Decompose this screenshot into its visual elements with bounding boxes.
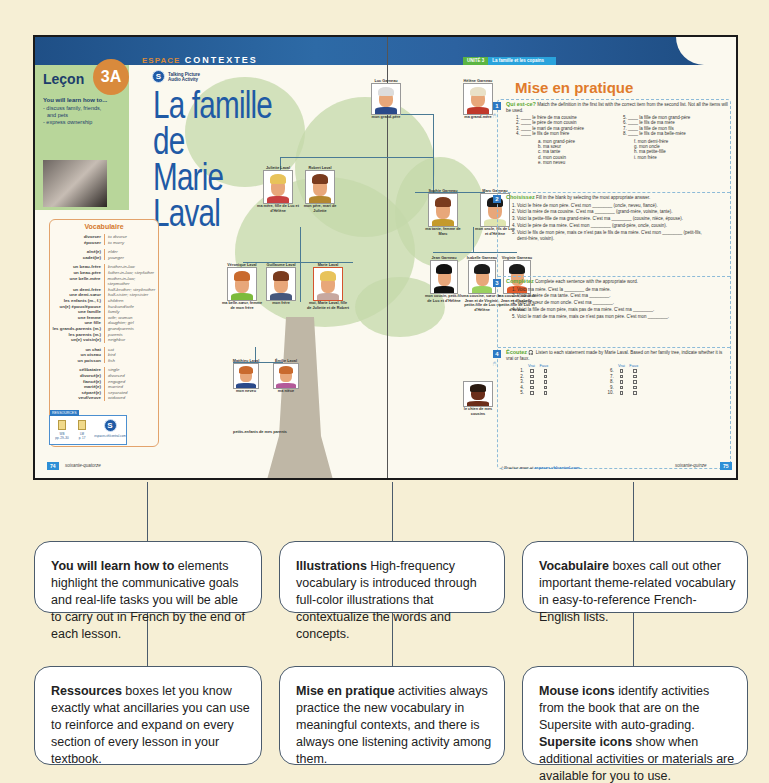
callout-connector: [147, 482, 148, 542]
supersite-url: espaces.vhlcentral.com: [94, 434, 126, 438]
faux-checkbox[interactable]: [633, 391, 637, 395]
divider: [498, 347, 730, 348]
faux-checkbox[interactable]: [633, 369, 637, 373]
faux-checkbox[interactable]: [544, 380, 548, 384]
vrai-checkbox[interactable]: [620, 380, 624, 384]
vrai-checkbox[interactable]: [530, 369, 534, 373]
activity-item: 8. ____ le fils de ma belle-mère: [623, 131, 730, 136]
activity-heading: Qui est-ce? Match the definition in the …: [498, 102, 730, 113]
ressource-pages: p. 17: [74, 436, 90, 440]
activity-4: 4 🖱 Écoutez 🎧 Listen to each statement m…: [498, 350, 730, 395]
supersite-icon: S: [104, 419, 117, 432]
vocab-french: veuf/veuve: [50, 395, 104, 401]
divider: [498, 276, 730, 277]
activity-instructions: Complete each sentence with the appropri…: [535, 279, 638, 284]
member-portrait: [227, 267, 257, 301]
section-heading: ESPACE CONTEXTES: [142, 55, 258, 65]
item-number: 10.: [606, 390, 614, 395]
vrai-checkbox[interactable]: [530, 386, 534, 390]
activity-item: 1. Voici ma mère. C'est la ________ de m…: [512, 287, 690, 292]
lesson-panel: Leçon 3A You will learn how to... - disc…: [35, 65, 129, 210]
activity-title: Écoutez: [506, 349, 527, 355]
page-number-left: 74: [47, 462, 59, 470]
supersite-icon[interactable]: S: [152, 70, 165, 83]
vrai-checkbox[interactable]: [620, 386, 624, 390]
vocab-french: cadet(te): [50, 255, 104, 261]
vrai-checkbox[interactable]: [620, 369, 624, 373]
vrai-checkbox[interactable]: [530, 391, 534, 395]
faux-checkbox[interactable]: [633, 386, 637, 390]
member-caption: ma tante, femme de Marc: [422, 227, 464, 236]
vrai-checkbox[interactable]: [530, 380, 534, 384]
callout-illustrations: Illustrations High-frequency vocabulary …: [279, 541, 505, 613]
activity-item: i. mon frère: [634, 155, 730, 160]
callout-icons: Mouse icons identify activities from the…: [522, 666, 748, 765]
mouse-icon[interactable]: 🖱: [493, 112, 501, 117]
callout-connector: [392, 482, 393, 542]
activity-number: 1: [493, 102, 501, 110]
activity-3: 3 Complétez Complete each sentence with …: [498, 279, 730, 321]
member-portrait: [305, 170, 335, 204]
family-member: le chien de mes cousins: [457, 381, 499, 416]
section-name: CONTEXTES: [185, 55, 258, 65]
faux-header: Faux: [629, 363, 638, 368]
activity-number: 4: [493, 350, 501, 358]
vrai-checkbox[interactable]: [620, 391, 624, 395]
callout-ressources: Ressources boxes let you know exactly wh…: [34, 666, 262, 765]
callout-connector: [633, 612, 634, 667]
vrai-faux-row: 5.: [516, 390, 606, 395]
faux-checkbox[interactable]: [544, 369, 548, 373]
activity-instructions: Listen to each statement made by Marie L…: [506, 350, 722, 361]
options-left: a. mon grand-pèreb. ma sœurc. ma tanted.…: [538, 139, 634, 166]
family-member: Luc Garneaumon grand-père: [365, 79, 407, 120]
activity-title: Choisissez: [506, 194, 535, 200]
learn-item: and pets: [43, 112, 101, 119]
mouse-icon[interactable]: 🖱: [493, 360, 501, 365]
callout-vocabulaire: Vocabulaire boxes call out other importa…: [522, 541, 748, 613]
vrai-header: Vrai: [528, 363, 535, 368]
page-number-right: 75: [720, 462, 732, 470]
page-word-right: soixante-quinze: [675, 463, 707, 468]
faux-checkbox[interactable]: [544, 375, 548, 379]
activity-item: 4. Voici le père de ma mère. C'est mon _…: [512, 223, 710, 228]
member-portrait: [273, 363, 299, 389]
member-portrait: [463, 381, 493, 407]
lesson-number-badge: 3A: [93, 59, 129, 95]
faux-checkbox[interactable]: [633, 380, 637, 384]
ressource-lm[interactable]: LM p. 17: [74, 420, 90, 440]
member-portrait: [428, 193, 458, 227]
vrai-checkbox[interactable]: [620, 375, 624, 379]
vrai-header: Vrai: [618, 363, 625, 368]
activity-item: 4. Voici la fille de mon père, mais pas …: [512, 307, 690, 312]
lesson-label: Leçon: [43, 71, 84, 87]
ressource-wb[interactable]: WB pp. 29–30: [54, 420, 70, 440]
vocabulaire-title: Vocabulaire: [50, 220, 158, 230]
activities-box: 1 🖱 Qui est-ce? Match the definition in …: [497, 99, 731, 469]
activity-item: 3. Voici la petite-fille de ma grand-mèr…: [512, 216, 710, 221]
callout-mise-en-pratique: Mise en pratique activities always pract…: [279, 666, 505, 765]
activity-number: 3: [493, 279, 501, 287]
vocab-english: to marry: [104, 240, 124, 246]
callout-lead: Mise en pratique: [296, 684, 395, 698]
ressource-supersite[interactable]: S espaces.vhlcentral.com: [94, 419, 126, 438]
callout-learn-how-to: You will learn how to elements highlight…: [34, 541, 262, 613]
activity-title: Qui est-ce?: [506, 101, 536, 107]
faux-checkbox[interactable]: [544, 386, 548, 390]
faux-checkbox[interactable]: [544, 391, 548, 395]
vrai-checkbox[interactable]: [530, 375, 534, 379]
header-banner: [35, 37, 736, 65]
activity-heading: Écoutez 🎧 Listen to each statement made …: [498, 350, 730, 361]
vocab-french: un poisson: [50, 358, 104, 364]
learn-item: - express ownership: [43, 119, 101, 126]
family-member: Robert Lavalmon père, mari de Juliette: [299, 166, 341, 213]
callout-lead: Ressources: [51, 684, 122, 698]
member-caption: mon cousin, petit-fils de Luc et d'Hélèn…: [424, 294, 464, 303]
vocab-french: une belle-mère: [50, 276, 104, 287]
supersite-link[interactable]: espaces.vhlcentral.com.: [534, 465, 580, 470]
headphones-icon[interactable]: 🎧: [528, 350, 534, 355]
activity-instructions: Match the definition in the first list w…: [506, 102, 728, 113]
faux-checkbox[interactable]: [633, 375, 637, 379]
mouse-icon: 🖱: [501, 465, 503, 470]
book-icon: [58, 420, 66, 430]
talking-picture[interactable]: S Talking Picture Audio Activity: [152, 70, 200, 83]
